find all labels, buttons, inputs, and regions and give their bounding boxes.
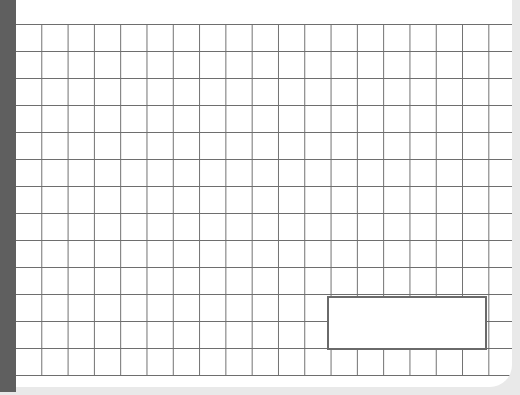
binding-spine [0, 0, 16, 392]
graph-paper-sheet [0, 0, 512, 387]
highlighted-rectangle [327, 296, 487, 350]
